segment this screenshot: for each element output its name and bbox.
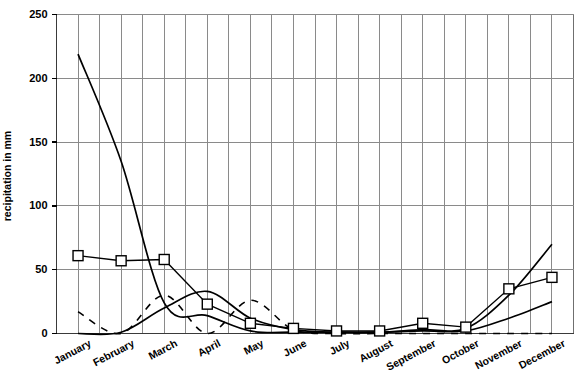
data-point-marker (73, 251, 83, 261)
data-point-marker (288, 323, 298, 333)
data-point-marker (418, 318, 428, 328)
y-tick-0: 0 (41, 327, 47, 339)
y-tick-50: 50 (35, 263, 47, 275)
data-point-marker (245, 318, 255, 328)
chart-canvas: 050100150200250 JanuaryFebruaryMarchApri… (0, 0, 581, 387)
y-tick-150: 150 (29, 136, 47, 148)
data-point-marker (375, 326, 385, 336)
y-tick-100: 100 (29, 199, 47, 211)
data-point-marker (116, 256, 126, 266)
y-tick-250: 250 (29, 8, 47, 20)
data-point-marker (332, 326, 342, 336)
data-point-marker (504, 284, 514, 294)
data-point-marker (547, 272, 557, 282)
y-axis-title: recipitation in mm (1, 131, 13, 221)
precipitation-chart: 050100150200250 JanuaryFebruaryMarchApri… (0, 0, 581, 387)
y-tick-200: 200 (29, 72, 47, 84)
data-point-marker (202, 299, 212, 309)
data-point-marker (159, 254, 169, 264)
data-point-marker (461, 322, 471, 332)
